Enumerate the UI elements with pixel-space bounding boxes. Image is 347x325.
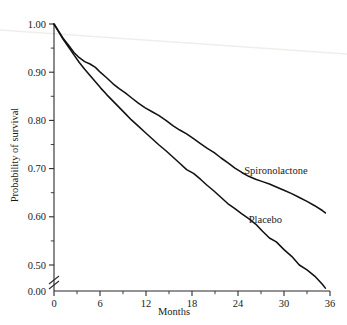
- x-axis-title: Months: [158, 306, 190, 317]
- y-tick-label-1.00: 1.00: [28, 19, 46, 30]
- y-axis-ticks: [49, 24, 54, 265]
- y-tick-label-0.50: 0.50: [28, 260, 46, 271]
- survival-chart-svg: 1.000.900.800.700.600.500.00 06121824303…: [0, 0, 347, 325]
- x-tick-label-24: 24: [233, 298, 244, 309]
- scan-artifact-line: [0, 30, 347, 54]
- y-tick-label-0.70: 0.70: [28, 163, 46, 174]
- survival-chart-figure: 1.000.900.800.700.600.500.00 06121824303…: [0, 0, 347, 325]
- curve-spironolactone: [54, 24, 325, 213]
- y-tick-label-0.00: 0.00: [28, 286, 46, 297]
- x-tick-label-6: 6: [97, 298, 102, 309]
- x-tick-label-12: 12: [141, 298, 152, 309]
- survival-curves-group: [54, 24, 325, 288]
- y-tick-label-0.60: 0.60: [28, 211, 46, 222]
- y-axis-title: Probability of survival: [9, 108, 20, 203]
- x-axis-ticks: [54, 291, 330, 296]
- series-annotations-group: SpironolactonePlacebo: [244, 165, 308, 224]
- x-tick-label-0: 0: [51, 298, 56, 309]
- x-tick-label-30: 30: [279, 298, 290, 309]
- x-tick-label-36: 36: [325, 298, 336, 309]
- curve-placebo: [54, 24, 325, 288]
- y-axis-tick-labels: 1.000.900.800.700.600.500.00: [28, 19, 46, 297]
- series-label-spironolactone: Spironolactone: [244, 165, 308, 176]
- y-tick-label-0.80: 0.80: [28, 115, 46, 126]
- series-label-placebo: Placebo: [249, 214, 282, 225]
- y-tick-label-0.90: 0.90: [28, 67, 46, 78]
- x-axis-tick-labels: 061218243036: [51, 298, 335, 309]
